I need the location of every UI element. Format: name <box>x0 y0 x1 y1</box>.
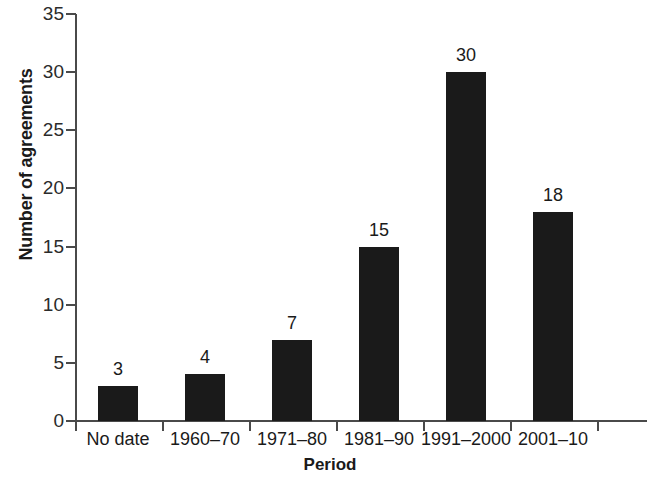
x-axis-title: Period <box>0 455 660 475</box>
bar-value-label: 4 <box>170 348 240 366</box>
bar-value-label: 18 <box>518 186 588 204</box>
bar-value-label: 15 <box>344 221 414 239</box>
y-axis-tick <box>66 71 76 73</box>
y-axis-tick <box>66 13 76 15</box>
y-axis-tick <box>66 129 76 131</box>
x-axis-category-label: 2001–10 <box>493 429 613 449</box>
bar <box>98 386 138 421</box>
y-axis-tick-label: 5 <box>12 353 64 372</box>
y-axis-title: Number of agreements <box>16 5 37 325</box>
y-axis-tick <box>66 246 76 248</box>
bar <box>185 374 225 421</box>
y-axis-tick <box>66 304 76 306</box>
y-axis-tick <box>66 362 76 364</box>
bar <box>446 72 486 421</box>
bar-value-label: 7 <box>257 314 327 332</box>
bar-value-label: 3 <box>83 360 153 378</box>
bar <box>272 340 312 421</box>
y-axis-tick-label: 10 <box>12 295 64 314</box>
y-axis-tick-label: 30 <box>12 62 64 81</box>
bar <box>359 247 399 421</box>
y-axis-tick-label: 20 <box>12 178 64 197</box>
y-axis-tick-label: 15 <box>12 237 64 256</box>
bar-chart: Number of agreements 05101520253035 3471… <box>0 0 660 481</box>
y-axis-line <box>75 14 77 422</box>
y-axis-tick-label: 0 <box>12 411 64 430</box>
bar-value-label: 30 <box>431 46 501 64</box>
y-axis-tick-label: 25 <box>12 120 64 139</box>
y-axis-tick <box>66 187 76 189</box>
bar <box>533 212 573 421</box>
y-axis-tick-label: 35 <box>12 4 64 23</box>
